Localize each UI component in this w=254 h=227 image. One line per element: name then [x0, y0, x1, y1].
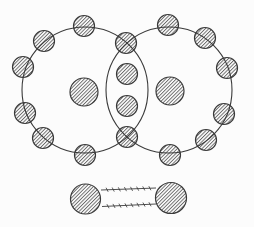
- electron-circle-left-shell: [75, 145, 96, 166]
- covalent-bonding-diagram: [0, 0, 254, 227]
- electron-circle-left-shell: [33, 128, 54, 149]
- nucleus-circle: [70, 78, 98, 106]
- bonded-atom-circle: [71, 184, 101, 214]
- electron-circle-left-shell: [15, 103, 36, 124]
- nucleus-circle: [156, 77, 184, 105]
- bonded-atom-circle: [156, 183, 187, 214]
- electron-circle-left-shell: [74, 16, 95, 37]
- electron-circle-right-shell: [160, 145, 181, 166]
- electron-circle-shared-overlap: [117, 64, 138, 85]
- electron-circle-right-shell: [196, 130, 217, 151]
- electron-circle-left-shell: [34, 31, 55, 52]
- electron-circle-shared-overlap: [117, 96, 138, 117]
- figure-canvas: [0, 0, 254, 227]
- electron-circle-right-shell: [217, 58, 238, 79]
- electron-circle-right-shell: [158, 15, 179, 36]
